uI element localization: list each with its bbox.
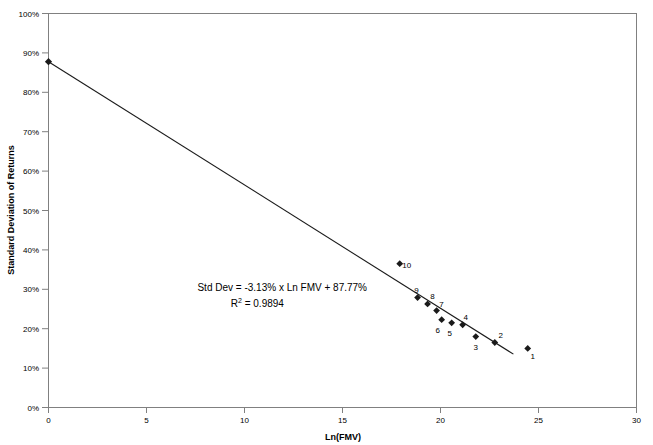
y-tick-label: 60% bbox=[23, 167, 39, 176]
data-point-label-9: 9 bbox=[414, 286, 419, 295]
x-tick-label: 30 bbox=[632, 416, 641, 425]
y-tick-label: 10% bbox=[23, 364, 39, 373]
x-tick-label: 20 bbox=[436, 416, 445, 425]
x-tick-label: 5 bbox=[144, 416, 149, 425]
trend-line-layer bbox=[45, 58, 514, 354]
data-point-label-7: 7 bbox=[439, 300, 444, 309]
data-point-marker-1[interactable] bbox=[524, 345, 531, 352]
data-point-label-1: 1 bbox=[530, 352, 535, 361]
y-tick-label: 80% bbox=[23, 88, 39, 97]
data-point-marker-4[interactable] bbox=[459, 321, 466, 328]
data-point-label-6: 6 bbox=[435, 326, 440, 335]
y-tick-label: 90% bbox=[23, 49, 39, 58]
plot-area-border bbox=[49, 14, 637, 408]
x-tick-label: 10 bbox=[240, 416, 249, 425]
y-tick-label: 70% bbox=[23, 128, 39, 137]
scatter-plot-svg: 0%10%20%30%40%50%60%70%80%90%100% 051015… bbox=[0, 0, 653, 445]
y-axis-ticks: 0%10%20%30%40%50%60%70%80%90%100% bbox=[19, 10, 49, 413]
data-point-label-8: 8 bbox=[430, 292, 435, 301]
y-tick-label: 0% bbox=[27, 404, 39, 413]
data-points-layer: 12345678910 bbox=[396, 260, 535, 361]
x-axis-title: Ln(FMV) bbox=[325, 432, 361, 442]
data-point-label-3: 3 bbox=[474, 343, 479, 352]
y-tick-label: 100% bbox=[19, 10, 39, 19]
chart-container: 0%10%20%30%40%50%60%70%80%90%100% 051015… bbox=[0, 0, 653, 445]
x-tick-label: 25 bbox=[534, 416, 543, 425]
y-tick-label: 30% bbox=[23, 285, 39, 294]
y-axis-title: Standard Deviation of Returns bbox=[6, 145, 16, 275]
data-point-label-5: 5 bbox=[447, 329, 452, 338]
data-point-marker-2[interactable] bbox=[491, 339, 498, 346]
y-tick-label: 40% bbox=[23, 246, 39, 255]
y-tick-label: 20% bbox=[23, 325, 39, 334]
intercept-marker bbox=[45, 58, 52, 65]
data-point-label-4: 4 bbox=[463, 313, 468, 322]
regression-line bbox=[49, 62, 514, 354]
x-axis-ticks: 051015202530 bbox=[46, 408, 641, 426]
data-point-label-10: 10 bbox=[402, 261, 411, 270]
y-tick-label: 50% bbox=[23, 207, 39, 216]
regression-equation-text: Std Dev = -3.13% x Ln FMV + 87.77% bbox=[197, 282, 367, 293]
data-point-marker-6[interactable] bbox=[438, 316, 445, 323]
r-squared-text: R2 = 0.9894 bbox=[231, 297, 285, 309]
x-tick-label: 15 bbox=[338, 416, 347, 425]
x-tick-label: 0 bbox=[46, 416, 51, 425]
data-point-marker-5[interactable] bbox=[448, 319, 455, 326]
data-point-label-2: 2 bbox=[499, 331, 504, 340]
data-point-marker-3[interactable] bbox=[472, 333, 479, 340]
